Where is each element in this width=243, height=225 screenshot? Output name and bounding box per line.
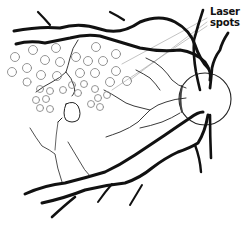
laser-spot: [47, 106, 54, 113]
laser-spot: [23, 78, 31, 86]
laser-spot: [92, 43, 101, 52]
laser-spot: [69, 82, 76, 89]
laser-spot: [43, 96, 50, 103]
laser-spot: [75, 90, 82, 97]
laser-spot: [8, 68, 17, 77]
laser-spot: [81, 81, 88, 88]
laser-spot: [106, 78, 115, 87]
laser-spot: [99, 57, 108, 66]
laser-spot: [41, 56, 50, 65]
laser-spot: [72, 53, 81, 62]
laser-spot: [92, 86, 99, 93]
retina-diagram: Laser spots: [0, 0, 243, 225]
laser-spot: [37, 105, 44, 112]
laser-spot: [97, 104, 104, 111]
laser-spot: [76, 69, 85, 78]
laser-spot: [52, 44, 61, 53]
laser-spots-label-line2: spots: [210, 18, 240, 28]
laser-spot: [60, 87, 67, 94]
laser-spot: [123, 77, 132, 86]
laser-spot: [88, 101, 95, 108]
laser-spots-label-line1: Laser: [210, 7, 240, 17]
laser-spot: [37, 71, 46, 80]
vascular-loop: [58, 102, 80, 122]
laser-spot: [47, 88, 54, 95]
laser-spot: [91, 69, 100, 78]
laser-spot: [112, 67, 121, 76]
laser-spot: [23, 64, 32, 73]
laser-spot: [56, 58, 65, 67]
laser-spot: [104, 92, 111, 99]
leader-line: [112, 26, 207, 90]
optic-disc: [179, 73, 231, 125]
laser-spot: [11, 53, 20, 62]
laser-spot: [84, 57, 93, 66]
laser-spots: [8, 43, 132, 113]
laser-spot: [95, 95, 102, 102]
laser-spot: [33, 97, 40, 104]
laser-spot: [112, 50, 121, 59]
laser-spot: [29, 46, 38, 55]
major-vessels: [14, 10, 228, 217]
retina-illustration: [0, 0, 243, 225]
